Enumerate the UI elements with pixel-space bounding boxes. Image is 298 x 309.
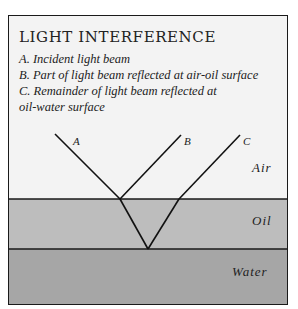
diagram-title: LIGHT INTERFERENCE [19,28,216,46]
water-label: Water [232,264,268,279]
air-label: Air [251,160,272,175]
legend-item-a: A. Incident light beam [19,52,130,67]
oil-layer [9,199,287,249]
legend-item-c: C. Remainder of light beam reflected at [19,84,217,99]
legend-item-c-continued: oil-water surface [19,100,105,115]
oil-label: Oil [252,213,272,228]
interference-diagram: A B C Air Oil Water [0,0,298,309]
beam-label-a: A [72,135,80,147]
legend-item-b: B. Part of light beam reflected at air-o… [19,68,258,83]
beam-label-b: B [184,135,191,147]
beam-a-incident [55,134,120,199]
beam-label-c: C [243,135,251,147]
beam-b-reflected [120,135,181,199]
